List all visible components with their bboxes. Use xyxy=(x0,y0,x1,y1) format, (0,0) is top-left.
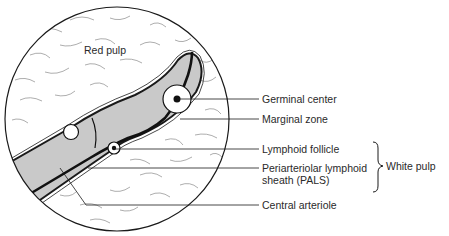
label-red-pulp: Red pulp xyxy=(84,44,126,56)
spleen-diagram xyxy=(0,0,449,236)
label-central-arteriole: Central arteriole xyxy=(262,199,337,211)
label-pals-line2: sheath (PALS) xyxy=(262,174,330,186)
label-germinal-center: Germinal center xyxy=(262,93,337,105)
label-lymphoid-follicle: Lymphoid follicle xyxy=(262,143,339,155)
white-pulp-region xyxy=(0,50,204,229)
label-marginal-zone: Marginal zone xyxy=(262,113,328,125)
white-pulp-bracket xyxy=(373,142,383,192)
label-pals-line1: Periarteriolar lymphoid xyxy=(262,162,367,174)
label-white-pulp: White pulp xyxy=(386,160,436,172)
